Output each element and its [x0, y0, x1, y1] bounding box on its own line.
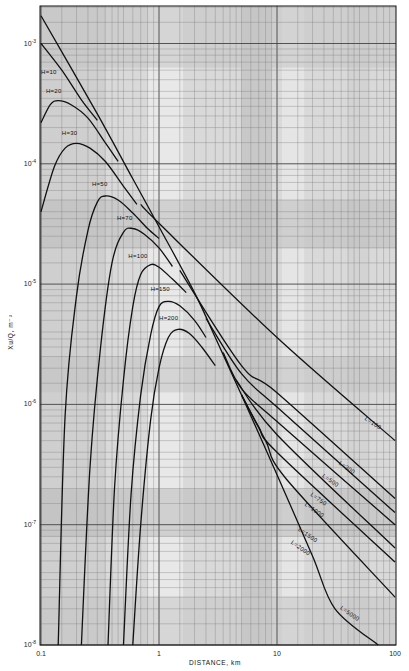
- y-tick-label: 10-5: [24, 278, 36, 287]
- curve-label-h-100: H=100: [128, 253, 148, 259]
- y-axis-title: Xu/Q, m⁻²: [7, 314, 15, 350]
- x-tick-label: 1: [157, 650, 161, 657]
- y-tick-label: 10-3: [24, 38, 36, 47]
- background-bands: [40, 6, 396, 645]
- y-tick-label: 10-6: [24, 398, 36, 407]
- curve-label-h-20: H=20: [46, 88, 62, 94]
- x-tick-label: 100: [389, 650, 401, 657]
- curve-label-h-30: H=30: [62, 130, 78, 136]
- y-axis-ticks: 10-310-410-510-610-710-8: [24, 38, 36, 649]
- curve-label-h-10: H=10: [41, 69, 57, 75]
- x-tick-label: 10: [273, 650, 281, 657]
- curve-label-h-150: H=150: [151, 286, 171, 292]
- curve-label-h-50: H=50: [92, 181, 108, 187]
- curve-label-h-200: H=200: [159, 315, 179, 321]
- x-axis-title: DISTANCE, km: [189, 659, 241, 666]
- y-tick-label: 10-8: [24, 639, 36, 648]
- y-tick-label: 10-7: [24, 519, 36, 528]
- x-tick-label: 0.1: [36, 650, 46, 657]
- x-axis-ticks: 0.1110100: [36, 650, 401, 657]
- chart: H=10H=20H=30H=50H=70H=100H=150H=200L=100…: [0, 0, 409, 671]
- y-tick-label: 10-4: [24, 158, 36, 167]
- curve-label-h-70: H=70: [117, 215, 133, 221]
